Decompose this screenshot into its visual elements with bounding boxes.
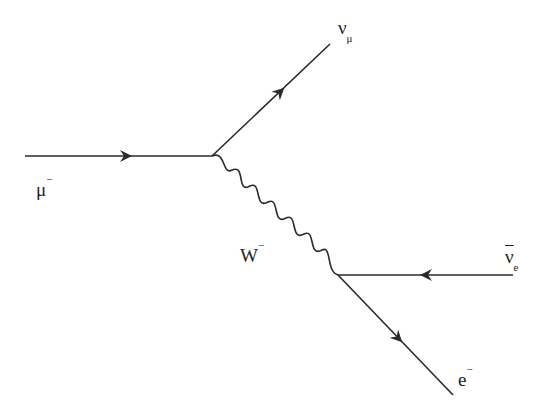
w-boson-label: W− — [240, 246, 264, 265]
w-boson-propagator — [212, 155, 338, 275]
muon-line — [25, 150, 212, 162]
electron-label: e− — [458, 370, 473, 389]
feynman-diagram — [0, 0, 547, 412]
subscript: e — [514, 261, 519, 273]
muon-neutrino-line — [212, 44, 330, 156]
muon-neutrino-label: νμ — [338, 18, 353, 37]
symbol: μ — [36, 179, 46, 200]
symbol: ν — [505, 246, 514, 267]
electron-line — [338, 275, 453, 395]
symbol: W — [240, 245, 258, 266]
superscript: − — [466, 363, 472, 375]
symbol: ν — [338, 17, 347, 38]
superscript: − — [46, 173, 52, 185]
subscript: μ — [347, 32, 353, 44]
electron-antineutrino-label: νe — [505, 247, 518, 266]
superscript: − — [258, 239, 264, 251]
muon-label: μ− — [36, 180, 52, 199]
electron-antineutrino-line — [338, 269, 513, 281]
